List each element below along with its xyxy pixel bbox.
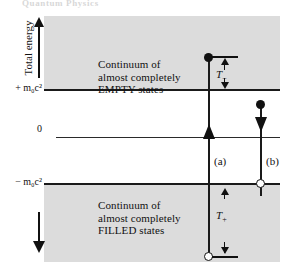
level-line-negative [44,183,280,185]
plot-panel: Continuum of almost completely EMPTY sta… [44,16,280,262]
empty-continuum-label: Continuum of almost completely EMPTY sta… [98,58,181,96]
arrow-up-icon-t-minus [221,58,229,65]
kinetic-energy-label-plus: T+ [216,209,227,224]
transition-label-b: (b) [266,155,279,167]
kinetic-energy-label-minus: T− [216,68,227,83]
t-minus-subscript: − [222,74,227,83]
filled-line-2: almost completely [98,212,181,225]
tick-label-negative-rest-energy: − m₀c² [2,176,42,187]
filled-circle-icon-b-start [256,100,265,109]
arrow-up-icon-t-plus [221,188,229,195]
open-circle-icon-b-end [256,179,265,188]
tick-label-positive-rest-energy: + m₀c² [2,82,42,93]
empty-line-3: EMPTY states [98,83,181,96]
arrow-down-icon [255,117,267,132]
level-line-zero [56,137,280,138]
filled-line-1: Continuum of [98,199,181,212]
y-axis-line [38,24,40,78]
tick-label-zero: 0 [2,123,42,134]
filled-line-3: FILLED states [98,224,181,237]
filled-circle-icon-a-end [204,53,213,62]
transition-label-a: (a) [214,155,226,167]
arrow-down-icon-t-plus [221,247,229,254]
arrow-up-icon [203,124,215,139]
arrow-down-icon-lower-axis [33,241,45,253]
measure-cap-bottom [212,256,238,258]
filled-continuum-label: Continuum of almost completely FILLED st… [98,199,181,237]
transition-line-a [208,57,210,256]
y-axis-label: Total energy [22,8,34,88]
arrow-up-icon-y-axis [34,17,44,27]
empty-line-2: almost completely [98,71,181,84]
energy-level-diagram: Quantum Physics Continuum of almost comp… [0,0,295,271]
t-plus-subscript: + [222,215,227,224]
empty-line-1: Continuum of [98,58,181,71]
top-caption-fragment: Quantum Physics [22,0,142,9]
